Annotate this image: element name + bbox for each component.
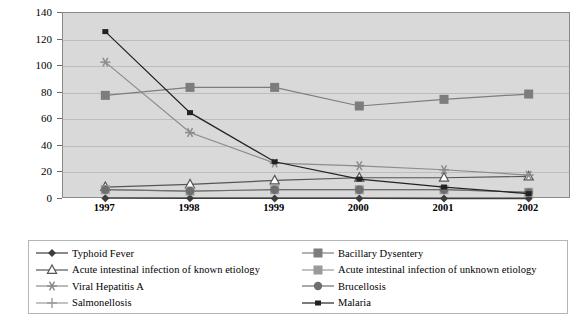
legend: Typhoid FeverAcute intestinal infection …	[28, 240, 568, 314]
legend-marker-diamond	[35, 246, 69, 260]
x-axis-tick-label: 2001	[433, 202, 454, 213]
legend-item[interactable]: Bacillary Dysentery	[301, 245, 563, 262]
legend-label: Acute intestinal infection of unknown et…	[335, 264, 537, 275]
legend-marker-triangle-open	[35, 263, 69, 277]
y-axis-tick-label: 120	[36, 33, 53, 45]
y-axis-tick-label: 140	[36, 6, 53, 18]
legend-marker-circle	[301, 279, 335, 293]
x-axis-tick-label: 2002	[517, 202, 538, 213]
legend-label: Bacillary Dysentery	[335, 248, 423, 259]
y-axis-tick-label: 0	[47, 192, 53, 204]
series-layer	[63, 13, 571, 199]
legend-sample	[301, 263, 335, 277]
series-3	[101, 171, 534, 190]
y-axis-tick-label: 20	[41, 165, 52, 177]
series-2	[101, 83, 533, 111]
legend-item[interactable]: Salmonellosis	[35, 295, 297, 312]
legend-marker-square-small	[301, 296, 335, 310]
legend-label: Acute intestinal infection of known etio…	[69, 264, 260, 275]
y-axis-tick-label: 100	[36, 59, 53, 71]
series-5	[100, 58, 533, 180]
legend-item[interactable]: Brucellosis	[301, 278, 563, 295]
plot-area	[62, 12, 570, 198]
x-axis-tick-labels: 199719981999200020012002	[62, 200, 570, 220]
legend-item[interactable]: Typhoid Fever	[35, 245, 297, 262]
legend-sample	[35, 263, 69, 277]
legend-sample	[301, 279, 335, 293]
legend-column-right: Bacillary DysenteryAcute intestinal infe…	[301, 245, 563, 311]
legend-sample	[35, 279, 69, 293]
legend-marker-plus	[35, 296, 69, 310]
x-axis-tick-label: 1999	[263, 202, 284, 213]
y-axis-tick-label: 40	[41, 139, 52, 151]
legend-column-left: Typhoid FeverAcute intestinal infection …	[35, 245, 297, 311]
series-6	[101, 186, 533, 197]
legend-item[interactable]: Viral Hepatitis A	[35, 278, 297, 295]
legend-sample	[301, 246, 335, 260]
legend-marker-asterisk	[35, 279, 69, 293]
y-axis-tick-label: 60	[41, 112, 52, 124]
x-axis-tick-label: 2000	[348, 202, 369, 213]
chart-container: Cases per 100,000 population 02040608010…	[0, 0, 587, 322]
legend-item[interactable]: Malaria	[301, 295, 563, 312]
y-axis-tick-label: 80	[41, 86, 52, 98]
legend-label: Brucellosis	[335, 281, 386, 292]
y-axis-tick-labels: 020406080100120140	[0, 12, 58, 198]
x-axis-tick-label: 1998	[179, 202, 200, 213]
legend-item[interactable]: Acute intestinal infection of known etio…	[35, 262, 297, 279]
legend-marker-square	[301, 263, 335, 277]
legend-sample	[35, 246, 69, 260]
x-axis-tick-label: 1997	[94, 202, 115, 213]
legend-label: Salmonellosis	[69, 297, 132, 308]
legend-label: Viral Hepatitis A	[69, 281, 144, 292]
legend-label: Typhoid Fever	[69, 248, 134, 259]
legend-marker-square	[301, 246, 335, 260]
legend-sample	[35, 296, 69, 310]
legend-sample	[301, 296, 335, 310]
legend-label: Malaria	[335, 297, 371, 308]
legend-item[interactable]: Acute intestinal infection of unknown et…	[301, 262, 563, 279]
y-axis-tick	[57, 198, 62, 199]
